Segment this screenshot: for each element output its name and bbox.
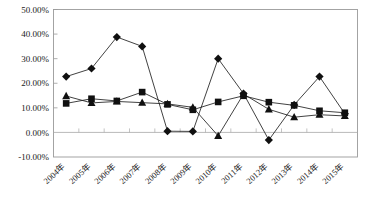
data-point-square [139,89,146,96]
y-axis-label: 30.00% [21,54,49,64]
y-axis-label: 50.00% [21,5,49,15]
y-axis-label: 20.00% [21,78,49,88]
y-axis-label: 0.00% [26,128,50,138]
data-point-square [291,102,298,109]
data-point-square [63,100,70,107]
y-axis-label: 10.00% [21,103,49,113]
line-chart: 50.00%40.00%30.00%20.00%10.00%0.00%-10.0… [0,0,371,211]
y-axis-label: 40.00% [21,29,49,39]
data-point-square [266,99,273,106]
chart-background [0,0,371,211]
y-axis-label: -10.00% [18,152,49,162]
chart-canvas: 50.00%40.00%30.00%20.00%10.00%0.00%-10.0… [0,0,371,211]
data-point-square [215,99,222,106]
